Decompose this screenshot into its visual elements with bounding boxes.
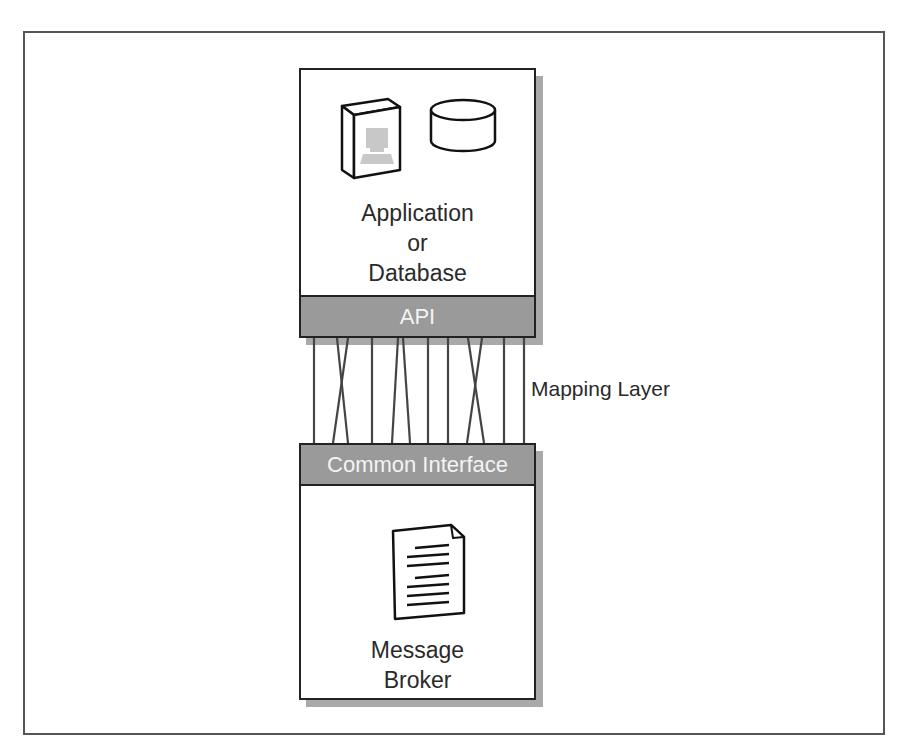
bottom-box-title: Message Broker [301, 635, 534, 695]
top-box-title: Application or Database [301, 198, 534, 288]
api-band: API [301, 295, 534, 336]
application-book-icon [339, 98, 409, 183]
document-icon [391, 525, 471, 625]
title-line-or: or [301, 228, 534, 258]
title-line-message: Message [301, 635, 534, 665]
database-cylinder-icon [428, 98, 498, 158]
title-line-database: Database [301, 258, 534, 288]
common-interface-band: Common Interface [301, 445, 534, 486]
application-database-box: Application or Database API [299, 68, 536, 338]
mapping-layer-label: Mapping Layer [531, 377, 670, 401]
title-line-application: Application [301, 198, 534, 228]
message-broker-box: Common Interface Message Broker [299, 443, 536, 700]
title-line-broker: Broker [301, 665, 534, 695]
